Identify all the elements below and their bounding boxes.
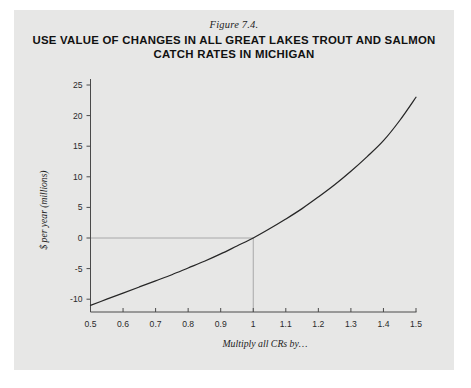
y-tick-label: 5 bbox=[51, 202, 83, 212]
y-tick-label: 20 bbox=[51, 111, 83, 121]
x-tick-label: 0.7 bbox=[150, 319, 162, 329]
x-axis-title: Multiply all CRs by… bbox=[222, 338, 307, 349]
x-tick-label: 1.3 bbox=[345, 319, 357, 329]
x-tick-label: 1.5 bbox=[410, 319, 422, 329]
chart-plot-area: -10-505101520250.50.60.70.80.911.11.21.3… bbox=[0, 0, 471, 388]
x-tick-label: 1.1 bbox=[280, 319, 292, 329]
x-tick-label: 0.8 bbox=[182, 319, 194, 329]
x-tick-label: 1 bbox=[251, 319, 256, 329]
x-tick-label: 0.9 bbox=[215, 319, 227, 329]
chart-tick-marks bbox=[87, 85, 417, 312]
y-tick-label: 10 bbox=[51, 172, 83, 182]
x-tick-label: 1.2 bbox=[312, 319, 324, 329]
x-tick-label: 0.5 bbox=[85, 319, 97, 329]
x-tick-label: 1.4 bbox=[377, 319, 389, 329]
y-axis-title: $ per year (millions) bbox=[38, 170, 49, 249]
y-tick-label: -5 bbox=[51, 264, 83, 274]
chart-canvas bbox=[0, 0, 471, 388]
y-tick-label: 15 bbox=[51, 141, 83, 151]
y-tick-label: -10 bbox=[51, 294, 83, 304]
x-tick-label: 0.6 bbox=[117, 319, 129, 329]
y-tick-label: 0 bbox=[51, 233, 83, 243]
figure-root: Figure 7.4. USE VALUE OF CHANGES IN ALL … bbox=[0, 0, 471, 388]
y-tick-label: 25 bbox=[51, 80, 83, 90]
